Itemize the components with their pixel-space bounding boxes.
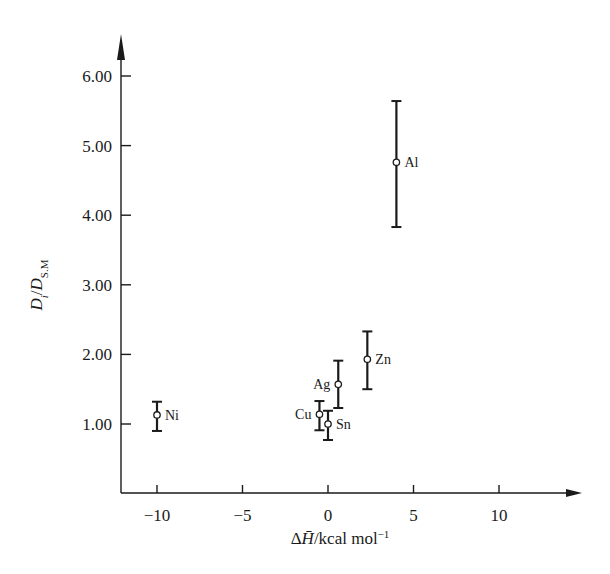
- x-tick-label: 5: [409, 506, 418, 525]
- open-circle-marker-icon: [325, 421, 331, 427]
- open-circle-marker-icon: [335, 381, 341, 387]
- y-tick-label: 6.00: [82, 67, 112, 86]
- data-point-ni: Ni: [152, 402, 179, 431]
- open-circle-marker-icon: [393, 159, 399, 165]
- data-point-cu: Cu: [295, 401, 324, 430]
- open-circle-marker-icon: [316, 411, 322, 417]
- y-axis-arrow-icon: [117, 34, 125, 60]
- x-tick-label: −5: [233, 506, 251, 525]
- data-point-sn: Sn: [323, 411, 351, 440]
- axes: 1.002.003.004.005.006.00−10−50510: [82, 34, 582, 525]
- x-tick-label: 10: [491, 506, 508, 525]
- y-tick-label: 2.00: [82, 345, 112, 364]
- point-label: Zn: [375, 352, 391, 367]
- y-axis-label: Di/DS.M: [27, 259, 50, 311]
- x-axis-label: ΔH̄/kcal mol−1: [291, 528, 390, 548]
- x-tick-label: 0: [324, 506, 333, 525]
- x-tick-label: −10: [144, 506, 171, 525]
- point-label: Cu: [295, 407, 311, 422]
- y-tick-label: 1.00: [82, 415, 112, 434]
- scatter-chart: 1.002.003.004.005.006.00−10−50510 NiCuSn…: [0, 0, 610, 574]
- data-points: NiCuSnAgZnAl: [152, 101, 419, 440]
- x-axis-arrow-icon: [566, 489, 582, 497]
- open-circle-marker-icon: [154, 412, 160, 418]
- point-label: Ni: [165, 408, 179, 423]
- point-label: Sn: [336, 417, 351, 432]
- point-label: Ag: [313, 377, 330, 392]
- point-label: Al: [404, 155, 418, 170]
- data-point-zn: Zn: [362, 331, 391, 389]
- y-tick-label: 3.00: [82, 276, 112, 295]
- data-point-al: Al: [391, 101, 418, 227]
- y-tick-label: 5.00: [82, 137, 112, 156]
- open-circle-marker-icon: [364, 356, 370, 362]
- y-tick-label: 4.00: [82, 206, 112, 225]
